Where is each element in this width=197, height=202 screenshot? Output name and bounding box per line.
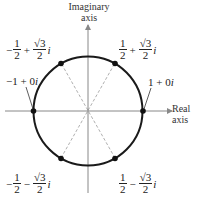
label-point-180deg: −1 + 0i — [6, 76, 38, 87]
fraction-imag: √32 — [139, 38, 153, 61]
denominator: 2 — [120, 50, 126, 61]
imaginary-axis-title: Imaginary axis — [66, 1, 112, 23]
leader-line-neg-one — [26, 87, 33, 109]
fraction-real: 12 — [13, 172, 21, 195]
denominator: 2 — [14, 50, 20, 61]
point-0deg — [140, 108, 146, 114]
sign: − — [6, 178, 12, 190]
real-axis-title-line2: axis — [172, 114, 196, 125]
operator: − — [24, 178, 30, 190]
fraction-imag: √32 — [33, 172, 47, 195]
point-60deg — [112, 61, 118, 67]
fraction-real: 12 — [13, 38, 21, 61]
fraction-imag: √32 — [139, 172, 153, 195]
label-point-60deg: 12 + √32 i — [118, 38, 156, 61]
sign: − — [6, 44, 12, 56]
label-point-0deg: 1 + 0i — [148, 77, 174, 88]
operator: + — [24, 44, 30, 56]
imag-unit: i — [47, 178, 50, 190]
imag-unit: i — [171, 76, 174, 88]
fraction-real: 12 — [119, 38, 127, 61]
imaginary-axis-title-line1: Imaginary — [66, 1, 112, 12]
denominator: 2 — [37, 50, 43, 61]
denominator: 2 — [14, 184, 20, 195]
label-point-300deg: 12 − √32 i — [118, 172, 156, 195]
leader-line-one — [144, 88, 151, 109]
denominator: 2 — [37, 184, 43, 195]
imag-unit: i — [153, 178, 156, 190]
label-text: 1 + 0 — [148, 76, 171, 88]
point-300deg — [112, 156, 118, 162]
fraction-real: 12 — [119, 172, 127, 195]
point-120deg — [58, 61, 64, 67]
point-240deg — [58, 156, 64, 162]
operator: − — [130, 178, 136, 190]
denominator: 2 — [143, 184, 149, 195]
label-text: −1 + 0 — [6, 75, 35, 87]
imag-unit: i — [153, 44, 156, 56]
real-axis-title-line1: Real — [172, 103, 196, 114]
imag-unit: i — [47, 44, 50, 56]
imaginary-axis-title-line2: axis — [66, 12, 112, 23]
label-point-240deg: − 12 − √32 i — [6, 172, 51, 195]
denominator: 2 — [143, 50, 149, 61]
fraction-imag: √32 — [33, 38, 47, 61]
label-point-120deg: − 12 + √32 i — [6, 38, 51, 61]
denominator: 2 — [120, 184, 126, 195]
point-180deg — [31, 108, 37, 114]
operator: + — [130, 44, 136, 56]
real-axis-title: Real axis — [172, 103, 196, 125]
imag-unit: i — [35, 75, 38, 87]
